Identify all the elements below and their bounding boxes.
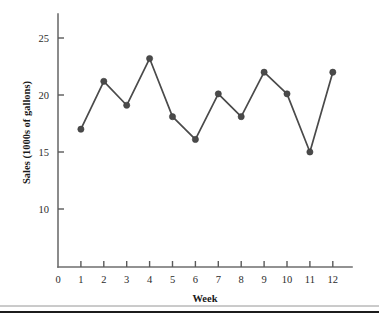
x-axis-title: Week — [192, 293, 217, 304]
data-point-week-4 — [147, 55, 153, 61]
x-tick-label-0: 0 — [55, 274, 60, 285]
data-point-week-8 — [238, 114, 244, 120]
data-point-week-1 — [78, 126, 84, 132]
x-tick-label-6: 6 — [193, 274, 198, 285]
data-point-week-9 — [261, 69, 267, 75]
line-chart: 10152025 0123456789101112 Week Sales (10… — [0, 0, 379, 321]
x-tick-label-1: 1 — [78, 274, 83, 285]
data-point-week-5 — [169, 114, 175, 120]
x-tick-label-7: 7 — [216, 274, 221, 285]
data-point-week-6 — [192, 136, 198, 142]
data-point-week-3 — [124, 102, 130, 108]
y-tick-label-20: 20 — [39, 90, 50, 101]
x-tick-label-3: 3 — [124, 274, 129, 285]
y-axis-title: Sales (1000s of gallons) — [21, 81, 33, 184]
data-point-week-10 — [284, 91, 290, 97]
chart-background — [0, 0, 379, 321]
data-point-week-7 — [215, 91, 221, 97]
data-point-week-11 — [307, 149, 313, 155]
data-point-week-12 — [330, 69, 336, 75]
x-tick-label-11: 11 — [305, 274, 315, 285]
x-tick-label-2: 2 — [101, 274, 106, 285]
x-tick-label-10: 10 — [282, 274, 293, 285]
y-tick-label-25: 25 — [39, 33, 50, 44]
x-tick-label-9: 9 — [261, 274, 266, 285]
y-tick-label-10: 10 — [39, 204, 50, 215]
x-tick-label-8: 8 — [239, 274, 244, 285]
x-tick-label-4: 4 — [147, 274, 153, 285]
data-point-week-2 — [101, 78, 107, 84]
figure-container: 10152025 0123456789101112 Week Sales (10… — [0, 0, 379, 321]
x-tick-label-12: 12 — [328, 274, 339, 285]
x-tick-label-5: 5 — [170, 274, 175, 285]
y-tick-label-15: 15 — [39, 147, 50, 158]
